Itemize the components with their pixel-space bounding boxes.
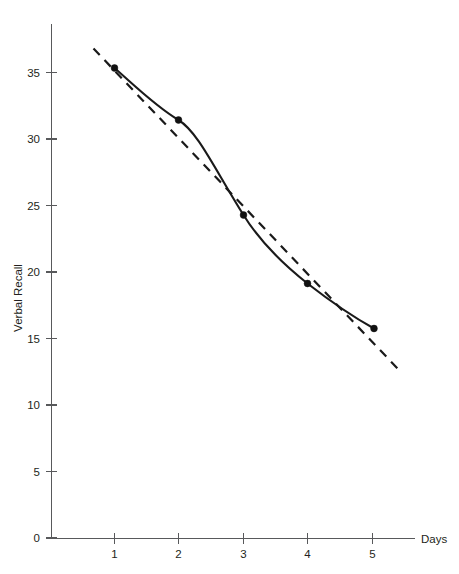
y-tick-label-20: 20 <box>27 266 40 278</box>
axes-group <box>52 24 416 539</box>
data-point-day-5 <box>371 325 378 332</box>
data-point-day-1 <box>111 65 118 72</box>
data-point-markers <box>111 65 377 332</box>
verbal-recall-line-chart: 35 30 25 20 15 10 5 0 1 2 3 4 5 Days Ver… <box>0 0 459 574</box>
y-tick-label-5: 5 <box>34 466 40 478</box>
y-tick-label-10: 10 <box>27 399 40 411</box>
trend-line-dashed <box>94 49 400 371</box>
x-tick-label-1: 1 <box>111 548 117 560</box>
x-axis-tick-labels: 1 2 3 4 5 <box>111 548 375 560</box>
y-tick-label-15: 15 <box>27 333 40 345</box>
y-tick-label-25: 25 <box>27 200 40 212</box>
x-tick-label-2: 2 <box>175 548 181 560</box>
data-point-day-2 <box>175 117 182 124</box>
x-tick-label-4: 4 <box>304 548 311 560</box>
y-tick-label-30: 30 <box>27 133 40 145</box>
data-point-day-3 <box>240 212 247 219</box>
observed-recall-curve <box>115 68 375 329</box>
chart-container: 35 30 25 20 15 10 5 0 1 2 3 4 5 Days Ver… <box>0 0 459 574</box>
y-tick-label-35: 35 <box>27 67 40 79</box>
data-point-day-4 <box>304 280 311 287</box>
x-axis-title: Days <box>421 533 447 545</box>
y-axis-title: Verbal Recall <box>12 264 24 332</box>
x-tick-label-5: 5 <box>369 548 375 560</box>
x-tick-label-3: 3 <box>240 548 246 560</box>
y-tick-label-0: 0 <box>34 532 40 544</box>
y-axis-tick-labels: 35 30 25 20 15 10 5 0 <box>27 67 40 544</box>
